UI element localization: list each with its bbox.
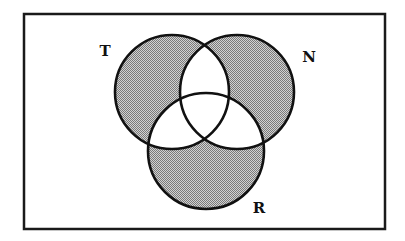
- set-n-label: N: [302, 48, 316, 66]
- shaded-regions: [0, 0, 405, 241]
- set-t-label: T: [99, 42, 111, 60]
- region-r-only: [0, 0, 405, 241]
- set-r-label: R: [253, 199, 266, 217]
- venn-diagram: T N R: [0, 0, 405, 241]
